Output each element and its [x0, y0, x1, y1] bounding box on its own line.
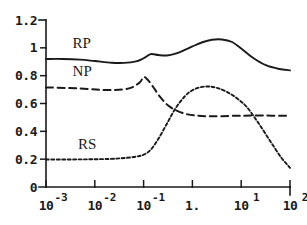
x-tick-exponent: -1: [152, 191, 166, 204]
line-chart: 00.20.40.60.811.210-310-210-11.101102RPN…: [0, 0, 307, 225]
y-tick-label: 0.8: [15, 68, 38, 83]
x-tick-label: 1.: [185, 198, 200, 213]
x-tick-label: 10: [87, 198, 102, 213]
x-tick-label: 10: [136, 198, 151, 213]
tick-labels-group: 00.20.40.60.811.210-310-210-11.101102RPN…: [15, 13, 307, 214]
series-label-np: NP: [73, 63, 92, 79]
x-tick-label: 10: [39, 198, 54, 213]
y-tick-label: 0.4: [15, 124, 38, 139]
x-tick-label: 10: [283, 198, 298, 213]
y-tick-label: 0.6: [15, 96, 38, 111]
x-tick-exponent: 2: [302, 191, 307, 204]
chart-container: 00.20.40.60.811.210-310-210-11.101102RPN…: [0, 0, 307, 225]
y-tick-label: 1: [30, 40, 38, 55]
x-tick-label: 10: [234, 198, 249, 213]
x-tick-exponent: -2: [103, 191, 116, 204]
series-label-rs: RS: [78, 136, 96, 152]
y-tick-label: 1.2: [15, 13, 37, 28]
y-tick-label: 0.2: [15, 152, 37, 167]
series-line-np: [46, 77, 290, 116]
x-tick-exponent: 1: [253, 191, 260, 204]
series-label-rp: RP: [73, 35, 91, 51]
y-tick-label: 0: [30, 180, 38, 195]
series-line-rs: [46, 86, 290, 167]
x-tick-exponent: -3: [54, 191, 67, 204]
